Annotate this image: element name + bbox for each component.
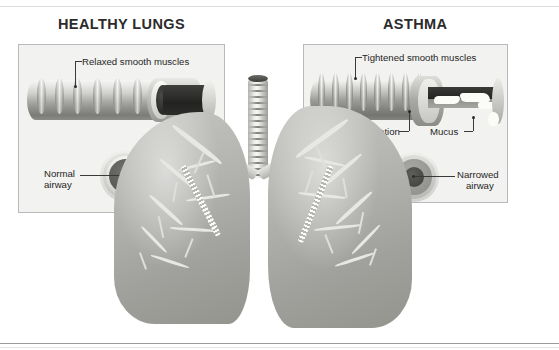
trachea xyxy=(248,78,268,178)
healthy-lungs-title: HEALTHY LUNGS xyxy=(58,16,185,32)
narrowed-airway-label-line2: airway xyxy=(466,180,494,191)
mucus-droplet xyxy=(488,112,499,126)
right-lung xyxy=(268,106,412,328)
leader-dot-mucus xyxy=(472,116,475,119)
mucus-plug xyxy=(460,93,490,102)
bottom-divider-rule-secondary xyxy=(0,347,559,348)
normal-airway-label-line2: airway xyxy=(44,179,90,190)
asthma-title: ASTHMA xyxy=(383,16,447,32)
cartilage-band xyxy=(37,78,46,114)
figure-canvas: HEALTHY LUNGS Relaxed smooth muscles Nor… xyxy=(0,0,559,350)
bottom-divider-rule xyxy=(0,343,559,344)
leader-line-mucus xyxy=(464,131,473,132)
cartilage-band xyxy=(93,78,102,114)
lung-illustration xyxy=(110,70,450,335)
trachea-top-opening xyxy=(248,75,268,82)
narrowed-airway-label-line1: Narrowed xyxy=(457,169,499,180)
tightened-smooth-muscles-label: Tightened smooth muscles xyxy=(362,52,476,63)
top-divider-rule xyxy=(0,6,559,7)
normal-airway-label-line1: Normal xyxy=(44,168,90,179)
leader-line-muscles-asthma xyxy=(355,57,362,58)
leader-line-mucus-stem xyxy=(473,118,474,131)
leader-line-muscles-healthy xyxy=(75,61,82,62)
relaxed-smooth-muscles-label: Relaxed smooth muscles xyxy=(82,56,189,67)
leader-dot-muscles-healthy xyxy=(74,85,77,88)
leader-line-muscles-healthy-stem xyxy=(75,61,76,86)
left-lung xyxy=(114,112,250,324)
cartilage-band xyxy=(55,78,64,114)
